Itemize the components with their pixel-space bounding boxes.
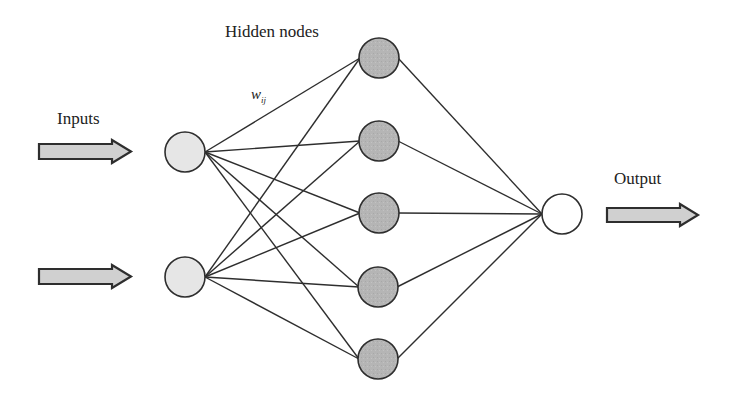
connection-x2-h4	[205, 277, 359, 287]
input-arrow-1	[39, 140, 131, 163]
input-arrow-2	[39, 265, 131, 288]
connection-h2-y	[398, 141, 542, 214]
input-node-x1	[165, 132, 205, 172]
hidden-node-h3	[359, 193, 399, 233]
connection-x2-h1	[205, 58, 360, 277]
hidden-nodes-label: Hidden nodes	[225, 22, 319, 41]
output-arrow	[607, 204, 698, 226]
hidden-node-h2	[359, 121, 399, 161]
connection-h4-y	[397, 214, 542, 287]
weight-subscript: ij	[261, 95, 267, 105]
connection-h3-y	[398, 213, 542, 214]
hidden-node-h4	[358, 267, 398, 307]
input-node-x2	[165, 257, 205, 297]
connection-h5-y	[397, 214, 542, 359]
connection-x2-h5	[205, 277, 359, 359]
weight-label: wij	[251, 86, 267, 105]
network-nodes	[165, 38, 582, 379]
connection-x1-h2	[205, 141, 360, 152]
neural-network-diagram: Inputs Hidden nodes Output wij	[0, 0, 733, 406]
connection-x1-h1	[205, 58, 360, 152]
inputs-label: Inputs	[57, 109, 100, 128]
output-label: Output	[614, 169, 662, 188]
hidden-node-h1	[359, 38, 399, 78]
output-node-y	[542, 194, 582, 234]
weight-symbol: w	[251, 86, 261, 102]
hidden-node-h5	[358, 339, 398, 379]
connection-h1-y	[398, 58, 542, 214]
